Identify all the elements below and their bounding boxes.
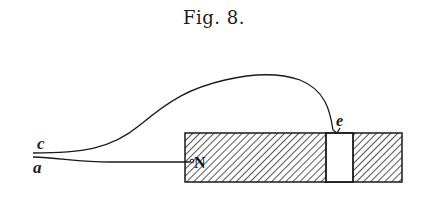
label-c: c bbox=[37, 134, 45, 153]
label-n: N bbox=[194, 154, 206, 171]
label-e: e bbox=[336, 112, 343, 129]
label-a: a bbox=[33, 158, 42, 177]
white-slot bbox=[326, 133, 353, 182]
hatched-bar bbox=[185, 133, 402, 182]
wire-a bbox=[33, 157, 190, 162]
magnet-diagram: c a N e bbox=[0, 0, 428, 211]
